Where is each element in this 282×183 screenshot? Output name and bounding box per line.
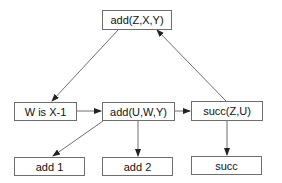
edge-succ-to-top	[157, 30, 226, 101]
node-succ-zu: succ(Z,U)	[191, 101, 263, 121]
node-w-is-x-1: W is X-1	[14, 102, 77, 121]
diagram-canvas: add(Z,X,Y) W is X-1 add(U,W,Y) succ(Z,U)…	[0, 0, 282, 183]
edge-top-to-w	[52, 29, 119, 101]
node-add-2: add 2	[102, 157, 173, 176]
node-add-uwy: add(U,W,Y)	[102, 102, 175, 121]
node-add-1: add 1	[14, 157, 85, 176]
edge-mid-to-add1	[53, 121, 103, 156]
node-succ-leaf: succ	[191, 156, 262, 175]
node-add-zxy: add(Z,X,Y)	[102, 10, 172, 30]
